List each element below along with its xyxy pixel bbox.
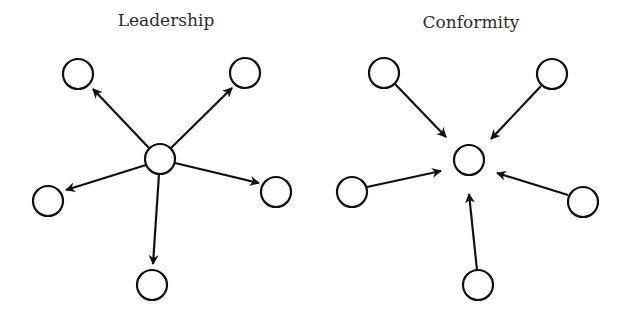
- peer-node-leadership-5: [137, 270, 167, 300]
- arrow-conformity-3: [497, 173, 568, 195]
- peer-node-leadership-3: [33, 186, 63, 216]
- panel-title-conformity: Conformity: [423, 12, 520, 32]
- arrow-conformity-1: [491, 86, 541, 139]
- edges-leadership: [66, 88, 259, 264]
- center-node-leadership: [145, 144, 175, 174]
- peer-node-leadership-1: [63, 59, 93, 89]
- peer-node-conformity-5: [463, 270, 493, 300]
- arrow-conformity-4: [469, 194, 477, 270]
- peer-node-conformity-4: [568, 187, 598, 217]
- arrow-conformity-0: [395, 84, 446, 137]
- arrow-leadership-2: [66, 165, 146, 190]
- panel-leadership: Leadership: [33, 10, 291, 300]
- arrow-leadership-4: [153, 174, 159, 264]
- arrow-leadership-0: [93, 89, 149, 148]
- nodes-leadership: [33, 58, 291, 300]
- panel-conformity: Conformity: [337, 12, 598, 300]
- leadership-conformity-diagram: Leadership Conformity: [0, 0, 628, 323]
- peer-node-conformity-1: [369, 58, 399, 88]
- peer-node-conformity-2: [537, 59, 567, 89]
- peer-node-leadership-2: [230, 58, 260, 88]
- edges-conformity: [367, 84, 568, 270]
- arrow-leadership-3: [175, 163, 259, 183]
- arrow-conformity-2: [367, 171, 441, 187]
- panel-title-leadership: Leadership: [118, 10, 215, 30]
- nodes-conformity: [337, 58, 598, 300]
- peer-node-conformity-3: [337, 177, 367, 207]
- arrow-leadership-1: [171, 88, 232, 148]
- center-node-conformity: [454, 145, 484, 175]
- peer-node-leadership-4: [261, 177, 291, 207]
